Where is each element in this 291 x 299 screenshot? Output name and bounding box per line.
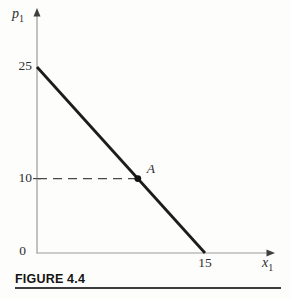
- origin-label: 0: [8, 244, 26, 258]
- point-a-dot: [134, 175, 141, 182]
- figure-4-4: p1 25 10 0 15 x1 A FIGURE 4.4: [0, 0, 291, 299]
- x-axis-label-sub: 1: [268, 262, 273, 273]
- caption-rule: [15, 287, 281, 289]
- figure-caption: FIGURE 4.4: [15, 272, 85, 286]
- x-tick-label: 15: [195, 256, 215, 270]
- x-axis-label: x1: [262, 256, 273, 270]
- y-axis-label-base: p: [12, 6, 19, 21]
- y-axis-label-sub: 1: [19, 13, 24, 24]
- y-tick-label: 25: [8, 59, 32, 73]
- demand-line: [37, 67, 205, 253]
- y-axis-label: p1: [12, 7, 24, 21]
- y-axis-arrowhead-icon: [34, 8, 41, 17]
- y-tick-label: 10: [8, 171, 32, 185]
- figure-chart: [0, 0, 291, 299]
- point-a-label: A: [147, 162, 155, 176]
